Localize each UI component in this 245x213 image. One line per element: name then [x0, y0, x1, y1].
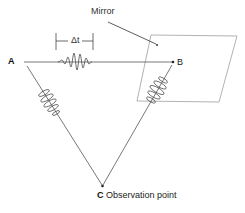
diagram-canvas	[0, 0, 245, 213]
wave-packet-ac	[38, 88, 60, 116]
wave-packet-ab	[58, 53, 92, 70]
wave-packet-bc	[146, 76, 168, 104]
mirror-pointer-dot	[156, 44, 158, 46]
point-c-dot	[101, 185, 104, 188]
mirror-label: Mirror	[91, 6, 115, 16]
path-a-c	[27, 66, 102, 185]
point-a-label: A	[8, 56, 15, 66]
mirror-plane	[137, 35, 237, 102]
point-b-label: B	[177, 57, 183, 67]
delta-t-label: Δt	[71, 35, 80, 45]
point-b-dot	[172, 61, 175, 64]
point-c-label: C Observation point	[97, 190, 177, 200]
observation-point-text: Observation point	[104, 190, 177, 200]
mirror-pointer-line	[108, 22, 156, 44]
